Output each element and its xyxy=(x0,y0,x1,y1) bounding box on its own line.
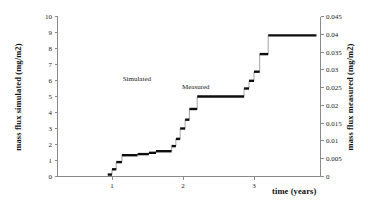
y-axis-left-tick-label: 1 xyxy=(49,157,53,165)
y-axis-left-tick-label: 10 xyxy=(45,13,53,21)
y-axis-right-tick-label: 0.005 xyxy=(326,155,342,163)
y-axis-left-tick-label: 0 xyxy=(49,173,53,181)
axes-group xyxy=(58,17,321,177)
chart-figure: 01234567891000.0050.010.0150.020.0250.03… xyxy=(0,0,368,212)
x-axis-tick-label: 2 xyxy=(181,182,185,190)
y-axis-right-tick-label: 0.01 xyxy=(326,137,339,145)
plot-annotation-label: Measured xyxy=(182,83,210,91)
plot-annotation-label: Simulated xyxy=(123,75,152,83)
y-axis-right-tick-label: 0.025 xyxy=(326,84,342,92)
y-axis-left-tick-label: 9 xyxy=(49,29,53,37)
y-axis-right-tick-label: 0 xyxy=(326,173,330,181)
ticks-group xyxy=(55,17,324,180)
y-axis-left-tick-label: 7 xyxy=(49,61,53,69)
y-axis-right-title: mass flux measured (mg/m2) xyxy=(345,32,355,162)
y-axis-right-tick-label: 0.035 xyxy=(326,49,342,57)
x-axis-tick-label: 1 xyxy=(110,182,114,190)
y-axis-left-tick-label: 3 xyxy=(49,125,53,133)
tick-labels-group: 01234567891000.0050.010.0150.020.0250.03… xyxy=(45,13,342,190)
y-axis-right-tick-label: 0.02 xyxy=(326,102,339,110)
y-axis-left-tick-label: 8 xyxy=(49,45,53,53)
x-axis-title: time (years) xyxy=(272,186,316,196)
y-axis-right-tick-label: 0.04 xyxy=(326,31,339,39)
y-axis-right-tick-label: 0.03 xyxy=(326,66,339,74)
y-axis-left-tick-label: 5 xyxy=(49,93,53,101)
y-axis-left-tick-label: 6 xyxy=(49,77,53,85)
y-axis-right-tick-label: 0.015 xyxy=(326,120,342,128)
y-axis-left-tick-label: 4 xyxy=(49,109,53,117)
data-series-group xyxy=(108,35,317,174)
mass-flux-step-chart: 01234567891000.0050.010.0150.020.0250.03… xyxy=(0,0,368,212)
y-axis-left-tick-label: 2 xyxy=(49,141,53,149)
step-curve-risers xyxy=(112,35,268,174)
y-axis-right-tick-label: 0.045 xyxy=(326,13,342,21)
plot-annotations-group: SimulatedMeasured xyxy=(123,75,210,92)
x-axis-tick-label: 3 xyxy=(252,182,256,190)
y-axis-left-title: mass flux simulated (mg/m2) xyxy=(13,32,23,162)
